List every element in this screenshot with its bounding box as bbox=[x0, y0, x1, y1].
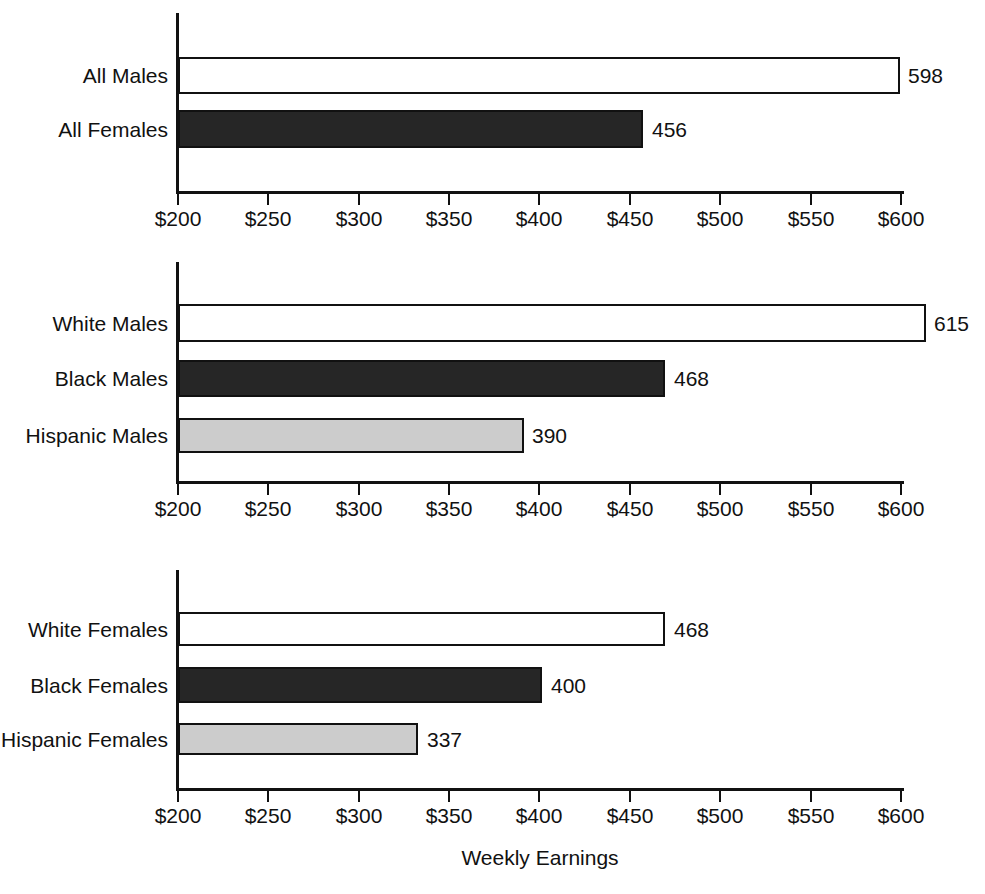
panel1-ticklabel-550: $550 bbox=[788, 208, 835, 229]
panel1-tick-600 bbox=[900, 194, 902, 205]
weekly-earnings-chart-figure: All Males 598 All Females 456 $200 $250 … bbox=[0, 0, 985, 894]
panel3-tick-400 bbox=[538, 791, 540, 802]
panel2-ticklabel-400: $400 bbox=[516, 498, 563, 519]
bar-hispanic-males bbox=[178, 418, 524, 453]
panel3-ticklabel-400: $400 bbox=[516, 805, 563, 826]
bar-value-white-males: 615 bbox=[934, 313, 969, 334]
panel2-tick-350 bbox=[448, 484, 450, 495]
panel3-ticklabel-250: $250 bbox=[245, 805, 292, 826]
bar-value-black-males: 468 bbox=[674, 368, 709, 389]
panel1-tick-400 bbox=[538, 194, 540, 205]
panel2-ticklabel-200: $200 bbox=[155, 498, 202, 519]
bar-label-white-males: White Males bbox=[0, 313, 168, 334]
panel1-ticklabel-600: $600 bbox=[878, 208, 925, 229]
bar-value-black-females: 400 bbox=[551, 675, 586, 696]
panel1-ticklabel-200: $200 bbox=[155, 208, 202, 229]
bar-value-hispanic-females: 337 bbox=[427, 729, 462, 750]
bar-value-hispanic-males: 390 bbox=[532, 425, 567, 446]
panel1-x-axis bbox=[176, 191, 904, 194]
bar-label-hispanic-males: Hispanic Males bbox=[0, 425, 168, 446]
panel1-tick-550 bbox=[810, 194, 812, 205]
panel3-tick-350 bbox=[448, 791, 450, 802]
panel3-ticklabel-300: $300 bbox=[336, 805, 383, 826]
panel1-tick-350 bbox=[448, 194, 450, 205]
panel2-tick-600 bbox=[900, 484, 902, 495]
panel2-tick-550 bbox=[810, 484, 812, 495]
panel1-tick-250 bbox=[267, 194, 269, 205]
bar-label-all-females: All Females bbox=[0, 119, 168, 140]
panel2-ticklabel-300: $300 bbox=[336, 498, 383, 519]
panel2-ticklabel-550: $550 bbox=[788, 498, 835, 519]
panel1-ticklabel-450: $450 bbox=[607, 208, 654, 229]
panel1-ticklabel-400: $400 bbox=[516, 208, 563, 229]
bar-black-males bbox=[178, 360, 665, 397]
panel3-tick-500 bbox=[719, 791, 721, 802]
panel2-tick-400 bbox=[538, 484, 540, 495]
bar-value-white-females: 468 bbox=[674, 619, 709, 640]
panel3-ticklabel-450: $450 bbox=[607, 805, 654, 826]
panel2-tick-500 bbox=[719, 484, 721, 495]
panel2-x-axis bbox=[176, 481, 904, 484]
panel1-ticklabel-500: $500 bbox=[697, 208, 744, 229]
bar-label-all-males: All Males bbox=[0, 65, 168, 86]
panel3-ticklabel-550: $550 bbox=[788, 805, 835, 826]
bar-label-black-males: Black Males bbox=[0, 368, 168, 389]
bar-all-males bbox=[178, 57, 900, 94]
panel3-ticklabel-500: $500 bbox=[697, 805, 744, 826]
panel3-tick-450 bbox=[629, 791, 631, 802]
panel2-ticklabel-350: $350 bbox=[426, 498, 473, 519]
panel3-ticklabel-600: $600 bbox=[878, 805, 925, 826]
panel2-ticklabel-600: $600 bbox=[878, 498, 925, 519]
chart-panel-all-workers: All Males 598 All Females 456 $200 $250 … bbox=[0, 0, 985, 230]
bar-label-white-females: White Females bbox=[0, 619, 168, 640]
panel3-tick-300 bbox=[358, 791, 360, 802]
panel2-ticklabel-450: $450 bbox=[607, 498, 654, 519]
bar-all-females bbox=[178, 110, 643, 148]
panel2-tick-200 bbox=[177, 484, 179, 495]
panel2-ticklabel-250: $250 bbox=[245, 498, 292, 519]
panel1-y-axis bbox=[176, 13, 179, 194]
bar-label-hispanic-females: Hispanic Females bbox=[0, 729, 168, 750]
chart-panel-females-by-race: White Females 468 Black Females 400 Hisp… bbox=[0, 560, 985, 894]
bar-value-all-females: 456 bbox=[652, 119, 687, 140]
panel1-ticklabel-300: $300 bbox=[336, 208, 383, 229]
panel3-tick-550 bbox=[810, 791, 812, 802]
panel3-tick-250 bbox=[267, 791, 269, 802]
x-axis-title: Weekly Earnings bbox=[461, 847, 618, 868]
bar-white-females bbox=[178, 612, 665, 646]
bar-white-males bbox=[178, 304, 926, 342]
panel2-tick-450 bbox=[629, 484, 631, 495]
panel1-ticklabel-250: $250 bbox=[245, 208, 292, 229]
panel1-tick-500 bbox=[719, 194, 721, 205]
panel3-ticklabel-350: $350 bbox=[426, 805, 473, 826]
panel3-x-axis bbox=[176, 788, 904, 791]
chart-panel-males-by-race: White Males 615 Black Males 468 Hispanic… bbox=[0, 255, 985, 545]
panel3-tick-200 bbox=[177, 791, 179, 802]
panel1-tick-450 bbox=[629, 194, 631, 205]
bar-black-females bbox=[178, 667, 542, 703]
panel1-tick-300 bbox=[358, 194, 360, 205]
panel3-ticklabel-200: $200 bbox=[155, 805, 202, 826]
panel2-tick-250 bbox=[267, 484, 269, 495]
panel2-tick-300 bbox=[358, 484, 360, 495]
panel1-ticklabel-350: $350 bbox=[426, 208, 473, 229]
bar-label-black-females: Black Females bbox=[0, 675, 168, 696]
bar-value-all-males: 598 bbox=[908, 65, 943, 86]
bar-hispanic-females bbox=[178, 723, 418, 755]
panel3-tick-600 bbox=[900, 791, 902, 802]
panel1-tick-200 bbox=[177, 194, 179, 205]
panel2-ticklabel-500: $500 bbox=[697, 498, 744, 519]
